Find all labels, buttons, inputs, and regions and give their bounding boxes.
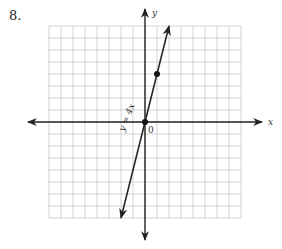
plotted-point (154, 71, 160, 77)
origin-label: 0 (148, 125, 154, 135)
y-axis-label: y (151, 8, 158, 18)
x-axis-label: x (268, 117, 273, 127)
coordinate-plane: x y 0 y = 4x (0, 0, 282, 249)
equation-label: y = 4x (116, 102, 137, 134)
